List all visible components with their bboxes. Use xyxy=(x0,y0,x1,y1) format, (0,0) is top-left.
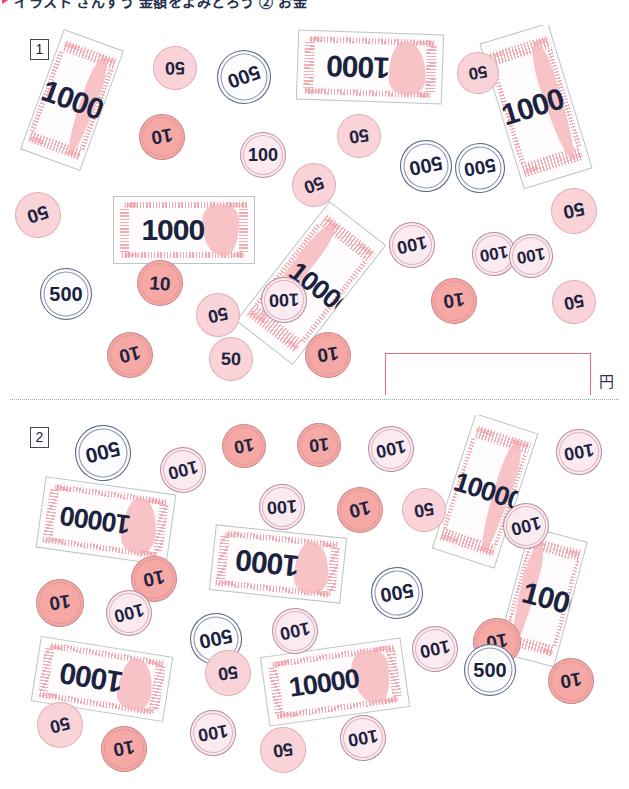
answer-unit-1: 円 xyxy=(599,370,614,391)
coin-50: 50 xyxy=(208,336,254,382)
problem-panel-1: 1 10001000100010001000100010001000100010… xyxy=(0,25,629,395)
panel-number-1: 1 xyxy=(30,39,49,60)
coin-50: 50 xyxy=(257,724,309,776)
coin-denomination: 10 xyxy=(112,738,136,760)
banknote-1000: 10001000100010001000 xyxy=(296,29,444,104)
worksheet-header: イラスト さんすう 金額をよみとろう ② お金 xyxy=(0,0,629,22)
coin-denomination: 10 xyxy=(442,290,466,312)
problem-panel-2: 2 10000100001000010000100001000010000100… xyxy=(0,415,629,789)
coin-denomination: 10 xyxy=(142,568,167,591)
coin-10: 10 xyxy=(102,327,158,383)
coin-denomination: 10 xyxy=(150,126,174,148)
banknote-1000: 10001000100010001000 xyxy=(209,524,347,603)
coin-100: 100 xyxy=(385,218,440,273)
worksheet-title: イラスト さんすう 金額をよみとろう ② お金 xyxy=(14,0,307,11)
coin-denomination: 100 xyxy=(278,619,311,643)
banknote-face: 1000010000100001000010000 xyxy=(261,639,409,726)
banknote-10000: 1000010000100001000010000 xyxy=(36,476,177,566)
coin-denomination: 100 xyxy=(509,514,543,539)
coin-10: 10 xyxy=(135,258,184,307)
coin-denomination: 50 xyxy=(217,663,239,684)
coin-50: 50 xyxy=(334,111,384,161)
banknote-corner-value: 1000 xyxy=(417,91,431,97)
coin-50: 50 xyxy=(9,186,67,244)
coin-denomination: 50 xyxy=(467,63,489,83)
coin-denomination: 500 xyxy=(49,284,82,304)
coin-100: 100 xyxy=(408,622,463,677)
banknote-face: 10001000100010001000 xyxy=(210,525,346,602)
banknote-face: 10001000100010001000 xyxy=(297,31,443,104)
coin-denomination: 100 xyxy=(248,146,278,164)
coin-denomination: 500 xyxy=(379,580,415,605)
coin-500: 500 xyxy=(40,268,92,320)
banknote-hatch-bottom xyxy=(310,36,434,46)
coin-denomination: 10 xyxy=(316,344,340,366)
coin-denomination: 100 xyxy=(395,233,428,257)
coin-denomination: 50 xyxy=(272,740,294,761)
coin-denomination: 50 xyxy=(221,350,242,369)
banknote-corner-value: 10000 xyxy=(380,696,398,704)
coin-500: 500 xyxy=(69,419,137,487)
banknote-corner-value: 10000 xyxy=(279,710,297,718)
banknote-face: 10001000100010001000 xyxy=(114,197,254,263)
coin-denomination: 50 xyxy=(302,173,327,197)
coin-denomination: 50 xyxy=(562,200,587,223)
coin-denomination: 500 xyxy=(408,153,445,180)
coin-denomination: 50 xyxy=(25,203,51,228)
banknote-denomination: 10000 xyxy=(40,499,172,544)
answer-box-1[interactable] xyxy=(385,353,591,395)
coin-10: 10 xyxy=(97,722,150,775)
coin-denomination: 10 xyxy=(308,435,330,455)
coin-10: 10 xyxy=(295,421,343,469)
banknote-corner-value: 1000 xyxy=(124,202,138,208)
coin-10: 10 xyxy=(428,275,480,327)
coin-denomination: 10 xyxy=(559,670,583,692)
coin-denomination: 10 xyxy=(117,343,142,367)
banknote-corner-value: 1000 xyxy=(147,659,162,667)
coin-100: 100 xyxy=(240,132,286,178)
banknote-1000: 10001000100010001000 xyxy=(113,196,255,264)
coin-denomination: 50 xyxy=(48,714,72,736)
coin-denomination: 100 xyxy=(374,437,407,461)
coin-500: 500 xyxy=(395,135,457,197)
coin-denomination: 500 xyxy=(198,626,235,653)
coin-denomination: 10 xyxy=(347,498,372,522)
banknote-corner-value: 1000 xyxy=(307,87,321,93)
coin-denomination: 100 xyxy=(166,458,200,483)
coin-500: 500 xyxy=(209,42,278,111)
coin-50: 50 xyxy=(547,184,602,239)
coin-denomination: 500 xyxy=(225,62,263,92)
coin-50: 50 xyxy=(548,276,600,328)
coin-denomination: 100 xyxy=(269,290,300,309)
coin-10: 10 xyxy=(33,576,87,630)
coin-10: 10 xyxy=(135,110,188,163)
coin-500: 500 xyxy=(451,139,509,197)
coin-denomination: 500 xyxy=(473,660,506,680)
banknote-denomination: 1000 xyxy=(114,215,254,245)
coin-denomination: 10 xyxy=(48,592,72,614)
panel-divider xyxy=(10,399,619,400)
coin-50: 50 xyxy=(152,45,198,91)
coin-denomination: 100 xyxy=(266,497,297,517)
coin-denomination: 50 xyxy=(413,499,436,520)
coin-denomination: 100 xyxy=(112,601,146,626)
coin-10: 10 xyxy=(332,482,388,538)
coin-100: 100 xyxy=(155,442,211,498)
banknote-corner-value: 1000 xyxy=(322,542,337,549)
coin-denomination: 10 xyxy=(233,435,256,456)
coin-denomination: 50 xyxy=(348,126,370,147)
answer-row-1: 円 xyxy=(385,353,591,395)
coin-100: 100 xyxy=(364,422,419,477)
banknote-corner-value: 1000 xyxy=(419,40,433,46)
panel-number-2: 2 xyxy=(30,427,49,448)
coin-denomination: 50 xyxy=(206,304,229,326)
coin-100: 100 xyxy=(336,711,389,764)
coin-50: 50 xyxy=(192,289,244,341)
coin-denomination: 500 xyxy=(83,439,122,468)
coin-100: 100 xyxy=(257,482,306,531)
coin-denomination: 100 xyxy=(479,243,510,265)
banknote-corner-value: 10000 xyxy=(271,660,289,668)
coin-100: 100 xyxy=(186,706,239,759)
banknote-face: 1000010000100001000010000 xyxy=(37,477,175,564)
coin-denomination: 100 xyxy=(563,441,596,464)
